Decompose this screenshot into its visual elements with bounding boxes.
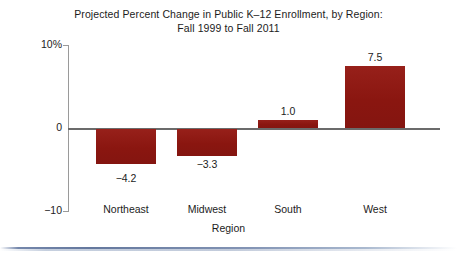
bar-midwest[interactable] bbox=[177, 129, 237, 156]
bar-value-west: 7.5 bbox=[335, 51, 415, 63]
x-axis-title: Region bbox=[0, 222, 457, 234]
category-label-south: South bbox=[238, 203, 338, 215]
bar-value-south: 1.0 bbox=[248, 105, 328, 117]
bar-value-midwest: −3.3 bbox=[167, 158, 247, 170]
page-edge-artifact bbox=[0, 247, 457, 249]
bar-west[interactable] bbox=[345, 66, 405, 128]
category-label-west: West bbox=[325, 203, 425, 215]
bar-series: −4.2 Northeast −3.3 Midwest 1.0 South 7.… bbox=[0, 0, 457, 253]
bar-northeast[interactable] bbox=[96, 129, 156, 164]
page-edge-artifact-soft bbox=[0, 249, 457, 251]
bar-south[interactable] bbox=[258, 120, 318, 128]
chart-figure: Projected Percent Change in Public K–12 … bbox=[0, 0, 457, 253]
bar-value-northeast: −4.2 bbox=[86, 172, 166, 184]
